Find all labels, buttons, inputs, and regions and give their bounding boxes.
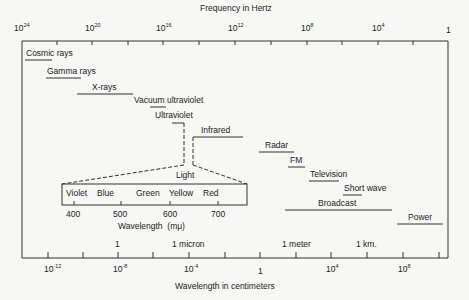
band-short-wave: Short wave	[344, 184, 387, 193]
freq-tick-label: 104	[372, 24, 385, 33]
freq-tick-label: 1012	[228, 24, 244, 33]
wl-tick-label: 10-4	[184, 265, 198, 274]
light-title: Light	[176, 171, 194, 180]
band-vacuum-ultraviolet: Vacuum ultraviolet	[134, 96, 203, 105]
band-fm: FM	[290, 156, 302, 165]
freq-tick-label: 1016	[156, 24, 172, 33]
marker-1: 1	[115, 240, 120, 249]
marker-1-meter: 1 meter	[282, 240, 311, 249]
freq-tick-label: 1	[446, 26, 451, 35]
band-broadcast: Broadcast	[318, 199, 356, 208]
band-ultraviolet: Ultraviolet	[155, 111, 193, 120]
band-cosmic-rays: Cosmic rays	[26, 49, 73, 58]
band-radar: Radar	[265, 141, 288, 150]
freq-tick-label: 108	[301, 24, 314, 33]
wl-tick-label: 108	[398, 265, 411, 274]
freq-tick-label: 1020	[85, 24, 101, 33]
band-infrared: Infrared	[201, 126, 230, 135]
band-power: Power	[408, 213, 432, 222]
frequency-axis-title: Frequency in Hertz	[200, 4, 272, 13]
band-x-rays: X-rays	[92, 83, 117, 92]
wl-tick-label: 10-8	[113, 265, 127, 274]
color-blue: Blue	[97, 189, 114, 198]
color-green: Green	[136, 189, 160, 198]
wl-tick-label: 104	[326, 265, 339, 274]
light-tick-400: 400	[66, 210, 80, 219]
light-tick-700: 700	[211, 210, 225, 219]
band-television: Television	[310, 170, 347, 179]
marker-1-micron: 1 micron	[172, 240, 205, 249]
wavelength-axis-title: Wavelength in centimeters	[175, 282, 275, 291]
freq-tick-label: 1024	[14, 24, 30, 33]
color-violet: Violet	[66, 189, 87, 198]
color-yellow: Yellow	[169, 189, 193, 198]
color-red: Red	[203, 189, 219, 198]
light-axis-label: Wavelength (mμ)	[118, 222, 185, 231]
wl-tick-label: 1	[258, 267, 263, 276]
band-gamma-rays: Gamma rays	[47, 67, 96, 76]
marker-1-km: 1 km.	[356, 240, 377, 249]
wl-tick-label: 10-12	[44, 265, 61, 274]
light-tick-500: 500	[113, 210, 127, 219]
light-tick-600: 600	[163, 210, 177, 219]
spectrum-frame	[0, 0, 469, 300]
